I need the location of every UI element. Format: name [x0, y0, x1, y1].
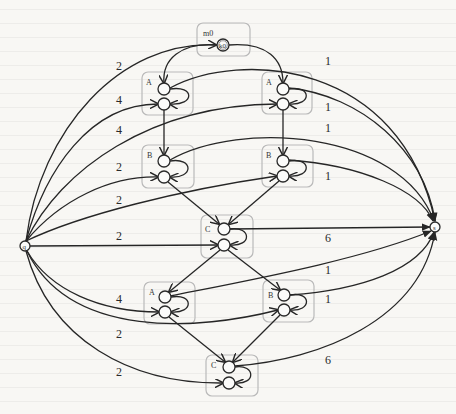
- right-weight-labels: 1 1 1 1 6 1 1 6: [325, 54, 331, 367]
- node-c1-top[interactable]: [218, 223, 230, 235]
- box-label-c2: C: [211, 361, 216, 370]
- weight-label: 2: [116, 365, 122, 379]
- node-sink[interactable]: s: [430, 222, 440, 232]
- node-a1-top[interactable]: [158, 83, 170, 95]
- node-c2-bottom[interactable]: [223, 377, 235, 389]
- weight-label: 1: [325, 100, 331, 114]
- node-c2-top[interactable]: [223, 361, 235, 373]
- box-label-b1: B: [147, 151, 152, 160]
- weight-label: 2: [116, 160, 122, 174]
- box-label-a1: A: [146, 78, 152, 87]
- edges-internal: [164, 45, 283, 362]
- loop-edges: [170, 88, 307, 383]
- node-label-k0: k0: [219, 42, 227, 50]
- weight-label: 6: [325, 353, 331, 367]
- weight-label: 1: [325, 169, 331, 183]
- node-k0[interactable]: k0: [217, 39, 229, 51]
- node-a1-bottom[interactable]: [158, 98, 170, 110]
- diagram-canvas: m0 A A B B C A B: [0, 0, 456, 414]
- node-b1-top[interactable]: [158, 155, 170, 167]
- node-a3-bottom[interactable]: [159, 306, 171, 318]
- weight-label: 1: [325, 292, 331, 306]
- node-b2-top[interactable]: [277, 155, 289, 167]
- weight-label: 4: [116, 292, 122, 306]
- node-a2-bottom[interactable]: [277, 98, 289, 110]
- node-source[interactable]: q: [20, 241, 30, 251]
- box-label-a2: A: [266, 78, 272, 87]
- box-label-m0: m0: [203, 29, 213, 38]
- weight-label: 6: [325, 231, 331, 245]
- node-a2-top[interactable]: [277, 83, 289, 95]
- graph-diagram: m0 A A B B C A B: [0, 0, 456, 414]
- node-label-s: s: [433, 224, 436, 232]
- weight-label: 4: [116, 93, 122, 107]
- node-b3-bottom[interactable]: [278, 304, 290, 316]
- weight-label: 1: [325, 121, 331, 135]
- node-label-q: q: [23, 243, 27, 251]
- node-a3-top[interactable]: [159, 291, 171, 303]
- weight-label: 1: [325, 54, 331, 68]
- box-label-a3: A: [149, 288, 155, 297]
- node-b1-bottom[interactable]: [158, 171, 170, 183]
- box-label-b2: B: [266, 151, 271, 160]
- weight-label: 2: [116, 59, 122, 73]
- weight-label: 2: [116, 327, 122, 341]
- box-c1: C: [201, 215, 253, 258]
- box-label-b3: B: [268, 291, 273, 300]
- box-label-c1: C: [205, 225, 210, 234]
- left-weight-labels: 2 4 4 2 2 2 4 2 2: [116, 59, 122, 379]
- weight-label: 4: [116, 123, 122, 137]
- weight-label: 1: [325, 263, 331, 277]
- weight-label: 2: [116, 193, 122, 207]
- node-b3-top[interactable]: [278, 289, 290, 301]
- node-b2-bottom[interactable]: [277, 170, 289, 182]
- weight-label: 2: [116, 229, 122, 243]
- node-c1-bottom[interactable]: [218, 239, 230, 251]
